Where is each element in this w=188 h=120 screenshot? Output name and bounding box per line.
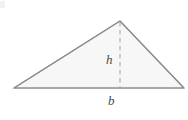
triangle-figure-svg xyxy=(0,0,188,120)
height-label: h xyxy=(106,53,113,66)
triangle-diagram: h b xyxy=(0,0,188,120)
triangle-shape xyxy=(14,21,184,88)
base-label: b xyxy=(108,94,115,107)
